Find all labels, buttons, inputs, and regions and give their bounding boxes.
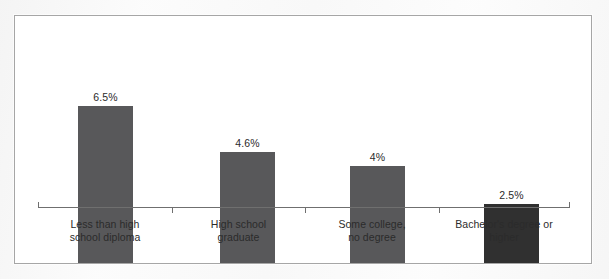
x-axis-label-3-line1: Bachelor's degree or bbox=[439, 218, 569, 231]
x-axis-label-2-line2: no degree bbox=[305, 231, 439, 244]
x-axis-label-0-line2: school diploma bbox=[38, 231, 172, 244]
bar-group: 4% bbox=[350, 166, 405, 263]
axis-tick-end bbox=[569, 202, 570, 208]
figure-frame: 6.5% 4.6% 4% 2.5% Less than high school … bbox=[14, 15, 592, 264]
axis-tick-start bbox=[38, 202, 39, 208]
axis-tick-3 bbox=[439, 207, 440, 213]
x-axis-label-1-line1: High school bbox=[172, 218, 305, 231]
x-axis-label-3: Bachelor's degree or higher bbox=[439, 218, 569, 244]
x-axis-label-2-line1: Some college, bbox=[305, 218, 439, 231]
x-axis-label-0: Less than high school diploma bbox=[38, 218, 172, 244]
bar-value-label: 2.5% bbox=[454, 189, 569, 201]
x-axis-label-3-line2: higher bbox=[439, 231, 569, 244]
bar-chart-plot: 6.5% 4.6% 4% 2.5% Less than high school … bbox=[15, 16, 591, 263]
x-axis-label-0-line1: Less than high bbox=[38, 218, 172, 231]
bar-rect[interactable] bbox=[350, 166, 405, 263]
bar-value-label: 4% bbox=[320, 151, 435, 163]
x-axis-label-1-line2: graduate bbox=[172, 231, 305, 244]
bar-value-label: 4.6% bbox=[190, 137, 305, 149]
x-axis-line bbox=[38, 207, 570, 208]
axis-tick-1 bbox=[172, 207, 173, 213]
axis-tick-2 bbox=[305, 207, 306, 213]
x-axis-label-1: High school graduate bbox=[172, 218, 305, 244]
x-axis-label-2: Some college, no degree bbox=[305, 218, 439, 244]
bar-value-label: 6.5% bbox=[48, 91, 163, 103]
